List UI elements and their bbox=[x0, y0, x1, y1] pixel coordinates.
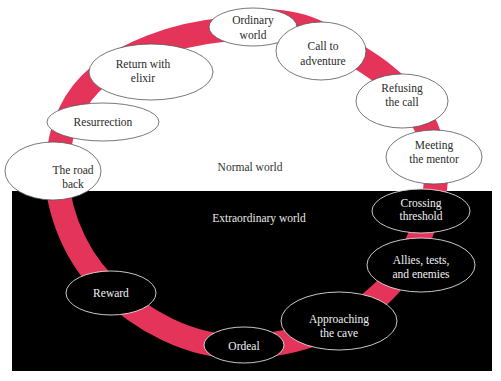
stage-crossing-threshold: Crossing threshold bbox=[372, 189, 470, 233]
svg-text:adventure: adventure bbox=[300, 55, 345, 67]
stage-approaching-the-cave: Approaching the cave bbox=[281, 292, 397, 350]
stage-resurrection: Resurrection bbox=[47, 103, 159, 141]
stage-meeting-the-mentor: Meeting the mentor bbox=[386, 130, 482, 184]
svg-text:world: world bbox=[240, 29, 267, 41]
stage-call-to-adventure: Call to adventure bbox=[276, 22, 366, 80]
stage-allies-tests-enemies: Allies, tests, and enemies bbox=[367, 238, 475, 292]
svg-text:the call: the call bbox=[385, 96, 419, 108]
svg-text:the mentor: the mentor bbox=[409, 153, 459, 165]
svg-text:Ordeal: Ordeal bbox=[228, 340, 259, 352]
stage-reward: Reward bbox=[66, 271, 156, 315]
svg-text:Meeting: Meeting bbox=[415, 139, 454, 152]
svg-text:The road: The road bbox=[52, 164, 93, 176]
svg-text:back: back bbox=[62, 178, 84, 190]
stage-the-road-back: The road back bbox=[5, 142, 101, 200]
svg-text:Ordinary: Ordinary bbox=[232, 14, 274, 27]
svg-text:elixir: elixir bbox=[131, 72, 155, 84]
svg-text:Call to: Call to bbox=[308, 40, 339, 52]
stage-refusing-the-call: Refusing the call bbox=[356, 74, 448, 128]
svg-text:and enemies: and enemies bbox=[392, 268, 450, 280]
svg-text:Allies, tests,: Allies, tests, bbox=[393, 254, 450, 267]
svg-text:the cave: the cave bbox=[320, 327, 358, 339]
svg-text:Resurrection: Resurrection bbox=[74, 116, 133, 128]
svg-text:Refusing: Refusing bbox=[381, 82, 423, 95]
svg-text:Crossing: Crossing bbox=[401, 197, 442, 210]
normal-world-label: Normal world bbox=[218, 161, 283, 173]
extraordinary-world-label: Extraordinary world bbox=[212, 212, 306, 225]
stage-ordeal: Ordeal bbox=[204, 327, 284, 363]
svg-text:Reward: Reward bbox=[93, 287, 129, 299]
heros-journey-diagram: Normal world Extraordinary world Ordinar… bbox=[0, 0, 501, 381]
stage-return-with-elixir: Return with elixir bbox=[89, 44, 213, 100]
svg-text:threshold: threshold bbox=[400, 210, 443, 222]
svg-text:Approaching: Approaching bbox=[309, 313, 369, 326]
svg-text:Return with: Return with bbox=[116, 58, 171, 70]
